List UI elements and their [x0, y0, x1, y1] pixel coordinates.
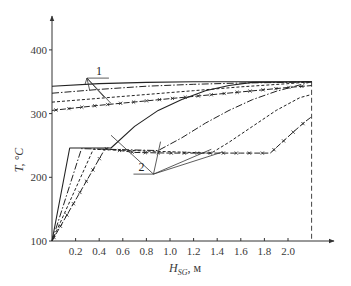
x-axis-title-unit: , м [187, 261, 201, 275]
series-secondary-dashed [52, 94, 312, 241]
series-secondary-dashdot [52, 82, 312, 241]
y-tick-label: 400 [31, 44, 48, 56]
chart: 1002003004000.20.40.60.81.01.21.41.61.82… [0, 0, 351, 286]
y-tick-label: 300 [31, 108, 48, 120]
y-tick-label: 100 [31, 235, 48, 247]
annotation-label-2: 2 [138, 160, 144, 174]
series-secondary-cross [52, 117, 312, 241]
axis-labels: T, °C HSG, м [12, 147, 201, 277]
y-tick-label: 200 [31, 171, 48, 183]
series-primary-cross [52, 86, 312, 111]
x-tick-label: 1.2 [187, 245, 201, 257]
cross-marker [85, 180, 88, 183]
cross-marker [301, 122, 304, 125]
annotations: 12 [85, 64, 223, 174]
cross-marker [65, 213, 68, 216]
cross-marker [98, 157, 101, 160]
cross-marker [272, 148, 275, 151]
x-tick-label: 1.8 [258, 245, 272, 257]
x-tick-label: 1.0 [163, 245, 177, 257]
cross-marker [282, 139, 285, 142]
x-tick-label: 0.4 [92, 245, 106, 257]
annotation-label-1: 1 [96, 64, 102, 78]
cross-marker [59, 225, 62, 228]
cross-marker [72, 202, 75, 205]
cross-marker [78, 191, 81, 194]
cross-marker [292, 131, 295, 134]
x-tick-label: 1.4 [210, 245, 224, 257]
series-group [52, 82, 312, 241]
series-secondary-solid [52, 82, 312, 241]
y-axis-title: T, °C [12, 147, 26, 173]
x-tick-label: 0.8 [140, 245, 154, 257]
x-tick-label: 0.6 [116, 245, 130, 257]
cross-marker [91, 168, 94, 171]
x-tick-label: 2.0 [281, 245, 295, 257]
x-tick-label: 1.6 [234, 245, 248, 257]
x-axis-title-sub: SG [178, 268, 188, 277]
x-axis-title: HSG, м [168, 261, 201, 277]
x-tick-label: 0.2 [69, 245, 83, 257]
y-axis-title-text: T, °C [12, 147, 26, 173]
